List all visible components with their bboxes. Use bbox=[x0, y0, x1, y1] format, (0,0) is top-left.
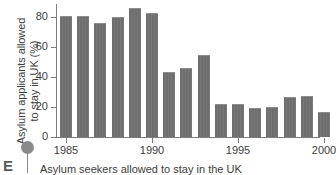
bar-1986 bbox=[77, 16, 89, 138]
bar-2000 bbox=[318, 112, 330, 138]
bar-1993 bbox=[198, 55, 210, 138]
bar-1999 bbox=[301, 96, 313, 137]
x-axis-tick-label-1990: 1990 bbox=[140, 144, 164, 156]
x-axis-tick-1995 bbox=[238, 138, 239, 143]
bar-1987 bbox=[94, 23, 106, 137]
plot-area bbox=[57, 4, 319, 137]
bar-1997 bbox=[266, 107, 278, 137]
y-axis-tick-label-0: 0 bbox=[42, 130, 48, 142]
x-axis-line bbox=[56, 137, 320, 138]
x-axis-tick-1990 bbox=[152, 138, 153, 143]
bar-1990 bbox=[146, 13, 158, 138]
x-axis-tick-label-1985: 1985 bbox=[54, 144, 78, 156]
y-axis-tick-label-20: 20 bbox=[36, 100, 48, 112]
bar-1985 bbox=[60, 16, 72, 138]
y-axis-tick-label-60: 60 bbox=[36, 40, 48, 52]
figure-marker-letter: E bbox=[3, 157, 13, 174]
bar-1995 bbox=[232, 104, 244, 137]
bar-1988 bbox=[112, 17, 124, 137]
map-pin-stem bbox=[27, 153, 28, 173]
map-pin-icon bbox=[21, 141, 35, 173]
bar-1991 bbox=[163, 72, 175, 137]
bar-1996 bbox=[249, 108, 261, 137]
y-axis-tick-0: 0 bbox=[51, 137, 57, 138]
bar-1994 bbox=[215, 104, 227, 137]
bar-1992 bbox=[180, 68, 192, 137]
bar-1989 bbox=[129, 8, 141, 137]
figure-caption: Asylum seekers allowed to stay in the UK bbox=[40, 163, 327, 175]
x-axis-tick-1985 bbox=[66, 138, 67, 143]
x-axis-tick-2000 bbox=[324, 138, 325, 143]
bar-1998 bbox=[284, 97, 296, 137]
y-axis-title-line-1: Asylum applicants allowed bbox=[15, 11, 28, 151]
x-axis-tick-label-1995: 1995 bbox=[226, 144, 250, 156]
x-axis-tick-label-2000: 2000 bbox=[312, 144, 336, 156]
y-axis-tick-label-40: 40 bbox=[36, 70, 48, 82]
y-axis-tick-label-80: 80 bbox=[36, 10, 48, 22]
